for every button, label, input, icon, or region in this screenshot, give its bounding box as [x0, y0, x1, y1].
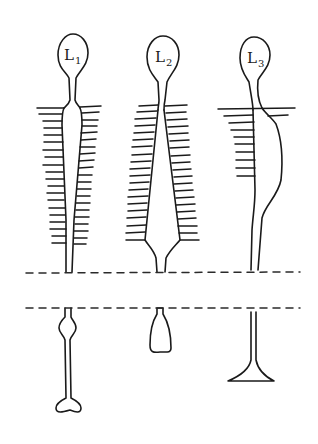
l1-fringe-right — [74, 106, 101, 244]
l2-fringe-left — [126, 105, 158, 240]
l3-shaft-right — [258, 108, 282, 270]
figure-l1: L 1 — [37, 34, 101, 412]
l2-label: L — [155, 48, 165, 66]
l1-bone-terminal — [56, 308, 81, 412]
dividers — [26, 272, 300, 308]
figure-l2: L 2 — [126, 36, 199, 352]
l3-shaft-left — [251, 110, 255, 270]
l1-fringe-left — [37, 108, 66, 243]
l2-fringe-right — [165, 105, 199, 240]
l1-subscript: 1 — [75, 55, 81, 66]
l3-subscript: 3 — [258, 58, 264, 69]
l2-shaft-left — [145, 110, 158, 272]
neuron-diagram: L 1 — [0, 0, 318, 444]
l2-subscript: 2 — [166, 57, 172, 68]
l2-bottle-terminal — [150, 308, 171, 352]
l3-head-bulb — [240, 37, 270, 110]
upper-dashed-line — [26, 272, 300, 273]
l3-flared-terminal — [228, 312, 274, 381]
figure-l3: L 3 — [218, 37, 295, 381]
l3-fringe — [218, 108, 295, 176]
l1-label: L — [64, 46, 74, 64]
l3-label: L — [247, 49, 257, 67]
l1-shaft-left — [62, 108, 66, 272]
